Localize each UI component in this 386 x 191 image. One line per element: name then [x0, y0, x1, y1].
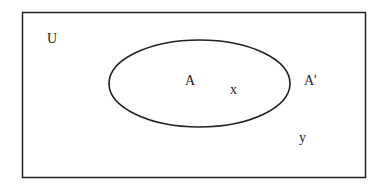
- set-a-label: A: [185, 73, 196, 88]
- element-x-label: x: [230, 82, 237, 97]
- universe-label: U: [47, 31, 57, 46]
- universe-rectangle: [23, 13, 366, 178]
- element-y-label: y: [299, 130, 306, 145]
- complement-label: A': [304, 73, 317, 88]
- set-a-ellipse: [109, 40, 290, 127]
- venn-diagram: U A x A' y: [0, 0, 386, 191]
